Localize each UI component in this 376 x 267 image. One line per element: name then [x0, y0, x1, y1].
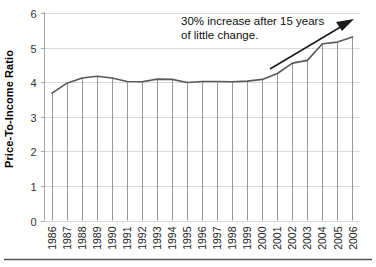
x-axis-tick-label: 2004	[316, 226, 328, 250]
x-axis-tick-label: 2000	[256, 226, 268, 250]
x-axis-tick-label: 2005	[332, 226, 344, 250]
x-axis-tick-label: 2003	[301, 226, 313, 250]
annotation-line-1: 30% increase after 15 years	[181, 15, 324, 27]
y-axis-title: Price-To-Income Ratio	[3, 50, 15, 168]
y-axis-tick-label: 6	[30, 8, 36, 20]
x-axis-tick-label: 1991	[121, 226, 133, 250]
y-axis-tick-label: 2	[30, 146, 36, 158]
x-axis-tick-label: 1998	[226, 226, 238, 250]
y-axis-tick-label: 5	[30, 43, 36, 55]
x-axis-tick-label: 1992	[136, 226, 148, 250]
x-axis-tick-label: 1986	[46, 226, 58, 250]
x-axis-tick-label: 1987	[61, 226, 73, 250]
price-to-income-ratio-line-chart: 0123456 19861987198819891990199119921993…	[0, 0, 376, 267]
x-axis-tick-label: 1993	[151, 226, 163, 250]
x-axis-tick-label: 1996	[196, 226, 208, 250]
y-axis-tick-label: 1	[30, 181, 36, 193]
y-axis-tick-label: 4	[30, 77, 36, 89]
x-axis-tick-label: 2006	[347, 226, 359, 250]
chart-figure: 0123456 19861987198819891990199119921993…	[0, 0, 376, 267]
x-axis-tick-label: 1997	[211, 226, 223, 250]
x-axis-tick-label: 1994	[166, 226, 178, 250]
x-axis-tick-labels: 1986198719881989199019911992199319941995…	[46, 226, 359, 250]
y-axis-tick-label: 3	[30, 112, 36, 124]
x-axis-tick-label: 1988	[76, 226, 88, 250]
x-axis-tick-label: 1999	[241, 226, 253, 250]
x-axis-tick-label: 1989	[91, 226, 103, 250]
x-axis-tick-label: 2002	[286, 226, 298, 250]
x-axis-tick-label: 2001	[271, 226, 283, 250]
y-axis-tick-label: 0	[30, 216, 36, 228]
x-axis-tick-label: 1995	[181, 226, 193, 250]
annotation-line-2: of little change.	[181, 29, 258, 41]
x-axis-tick-label: 1990	[106, 226, 118, 250]
